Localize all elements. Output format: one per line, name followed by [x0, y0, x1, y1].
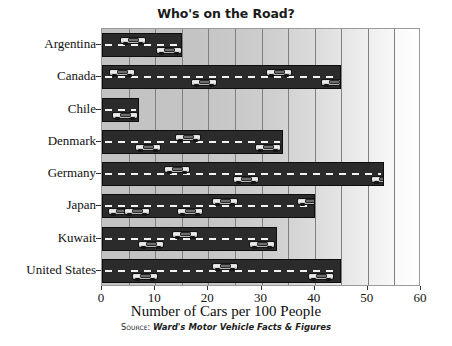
car-icon [371, 175, 383, 184]
source-note: Source: Ward's Motor Vehicle Facts & Fig… [0, 322, 452, 332]
car-icon [132, 272, 158, 281]
bar-row [102, 158, 420, 190]
car-icon [255, 143, 281, 152]
car-icon [212, 262, 238, 271]
car-icon [156, 46, 182, 55]
bar-row [102, 126, 420, 158]
road-bar[interactable] [102, 259, 341, 283]
chart-figure: Who's on the Road? ArgentinaCanadaChileD… [0, 0, 452, 346]
road-bar[interactable] [102, 194, 315, 218]
car-icon [124, 207, 150, 216]
road-bar[interactable] [102, 162, 384, 186]
bar-row [102, 29, 420, 61]
y-axis-tick-label: Canada [0, 69, 96, 83]
car-icon [135, 143, 161, 152]
road-bar[interactable] [102, 33, 182, 57]
lane-divider-dashes [105, 76, 338, 78]
bar-row [102, 255, 420, 286]
bar-row [102, 190, 420, 222]
car-icon [112, 111, 138, 120]
chart-title: Who's on the Road? [0, 6, 452, 21]
car-icon [308, 272, 334, 281]
car-icon [120, 36, 146, 45]
y-axis-tick-label: Kuwait [0, 231, 96, 245]
car-icon [109, 68, 135, 77]
car-icon [138, 240, 164, 249]
car-icon [297, 197, 315, 206]
car-icon [266, 68, 292, 77]
y-axis-tick-label: Denmark [0, 134, 96, 148]
road-bar[interactable] [102, 65, 341, 89]
car-icon [233, 175, 259, 184]
x-axis-title: Number of Cars per 100 People [0, 303, 452, 320]
road-bar[interactable] [102, 130, 283, 154]
car-icon [164, 165, 190, 174]
bar-row [102, 94, 420, 126]
y-axis-tick-label: United States [0, 263, 96, 277]
road-bar[interactable] [102, 98, 139, 122]
y-axis-tick-label: Argentina [0, 37, 96, 51]
source-label: Source: [121, 323, 150, 332]
car-icon [321, 78, 341, 87]
y-axis-labels: ArgentinaCanadaChileDenmarkGermanyJapanK… [0, 28, 96, 286]
car-icon [175, 133, 201, 142]
y-axis-tick-label: Japan [0, 198, 96, 212]
y-axis-tick-label: Germany [0, 166, 96, 180]
source-text: Ward's Motor Vehicle Facts & Figures [153, 322, 331, 332]
bar-row [102, 61, 420, 93]
y-axis-tick-label: Chile [0, 102, 96, 116]
car-icon [249, 240, 275, 249]
road-bar[interactable] [102, 227, 277, 251]
bar-row [102, 223, 420, 255]
car-icon [177, 207, 203, 216]
car-icon [191, 78, 217, 87]
plot-area [101, 28, 420, 286]
car-icon [172, 230, 198, 239]
car-icon [212, 197, 238, 206]
